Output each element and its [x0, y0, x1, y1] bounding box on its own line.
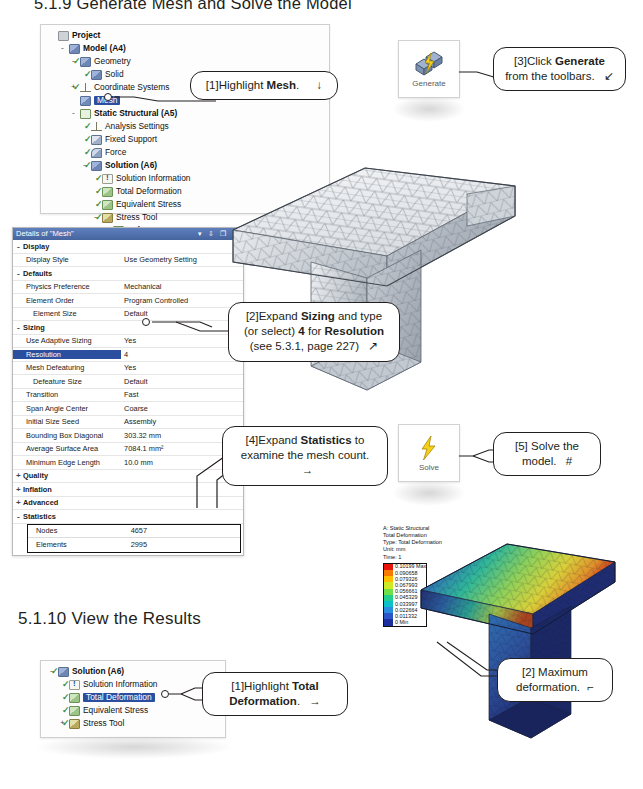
check-icon: ✓	[95, 174, 102, 183]
callout-7-arrow: ⌐	[587, 681, 594, 693]
tree-item-label: Total Deformation	[116, 187, 182, 195]
callout-2-number: [2]	[246, 310, 259, 322]
callout-6-line2-b: .	[297, 695, 300, 707]
support-icon: ✓	[90, 134, 103, 146]
details-row-resolution[interactable]: Resolution4	[13, 348, 243, 362]
details-row-key: Span Angle Center	[26, 404, 88, 413]
details-row-key: Transition	[26, 390, 58, 399]
tree-item-solution-a6[interactable]: -✓Solution (A6)	[47, 665, 225, 678]
tree-item-model-a4[interactable]: -Model (A4)	[47, 42, 329, 55]
callout-2-line1-b: and type	[335, 310, 382, 322]
callout-1-number: [1]	[206, 79, 219, 91]
callout-5-number: [5]	[515, 440, 528, 452]
expander-placeholder: +	[47, 31, 56, 40]
collapse-icon[interactable]: -	[14, 512, 23, 521]
tree-item-label: Static Structural (A5)	[94, 109, 177, 117]
callout-6-highlight-total-deformation: [1]Highlight Total Deformation. →	[202, 672, 348, 716]
check-icon: ✓	[95, 213, 102, 222]
expand-icon[interactable]: +	[14, 471, 23, 480]
details-key-cell: Element Size	[13, 309, 121, 318]
axes-icon: ✓	[79, 82, 92, 94]
details-row-span-angle-center[interactable]: Span Angle CenterCoarse	[13, 402, 243, 416]
details-row-key: Inflation	[23, 485, 52, 494]
details-key-cell: Defeature Size	[13, 377, 121, 386]
callout-2-leader	[146, 318, 238, 338]
details-row-key: Defaults	[23, 269, 52, 278]
details-key-cell: +Advanced	[13, 498, 121, 507]
tree-item-label: Fixed Support	[105, 135, 157, 143]
details-key-cell: Minimum Edge Length	[13, 458, 121, 467]
details-key-cell: -Defaults	[13, 269, 121, 278]
expand-icon[interactable]: +	[14, 498, 23, 507]
callout-1-nub	[104, 93, 112, 101]
callout-4-line1-a: Expand	[258, 434, 300, 446]
callout-5-line2: model.	[522, 455, 557, 467]
callout-5-line1: Solve the	[531, 440, 579, 452]
collapse-icon[interactable]: -	[14, 323, 23, 332]
document-page: 5.1.9 Generate Mesh and Solve the Model …	[0, 0, 643, 789]
tree-item-label: Solid	[105, 70, 124, 78]
callout-3-click-generate: [3]Click Generate from the toolbars. ↙	[493, 47, 626, 91]
details-key-cell: +Inflation	[13, 485, 121, 494]
collapse-icon[interactable]: -	[58, 44, 67, 53]
details-row-defeature-size[interactable]: Defeature SizeDefault	[13, 375, 243, 389]
tree-item-stress-tool[interactable]: +✓Stress Tool	[47, 717, 225, 730]
collapse-icon[interactable]: -	[14, 242, 23, 251]
tree-item-project[interactable]: +Project	[47, 29, 329, 42]
legend-value-label: 0 Min	[393, 619, 408, 626]
details-row-physics-preference[interactable]: Physics PreferenceMechanical	[13, 281, 243, 295]
callout-1-text-after: .	[296, 79, 299, 91]
details-row-key: Element Order	[26, 296, 74, 305]
force-icon: ✓	[90, 147, 103, 159]
details-row-initial-size-seed[interactable]: Initial Size SeedAssembly	[13, 416, 243, 430]
collapse-icon[interactable]: -	[69, 109, 78, 118]
check-icon: ✓	[62, 680, 69, 689]
callout-4-expand-statistics: [4]Expand Statistics to examine the mesh…	[222, 426, 388, 486]
details-row-display[interactable]: -Display	[13, 240, 243, 254]
callout-6-arrow: →	[309, 695, 321, 707]
details-key-cell: Transition	[13, 390, 121, 399]
callout-5-solve-model: [5] Solve the model. #	[493, 432, 601, 476]
legend-color-swatch	[384, 619, 393, 625]
check-icon: ✓	[84, 161, 91, 170]
callout-2-line2-a: (or select)	[244, 325, 298, 337]
expand-icon[interactable]: +	[14, 485, 23, 494]
details-row-transition[interactable]: TransitionFast	[13, 389, 243, 403]
tree-item-label: Analysis Settings	[105, 122, 169, 130]
tree-item-label: Coordinate Systems	[94, 83, 169, 91]
details-row-key: Physics Preference	[26, 282, 90, 291]
details-row-key: Minimum Edge Length	[26, 458, 100, 467]
callout-2-line1-emphasis: Sizing	[301, 310, 335, 322]
details-row-display-style[interactable]: Display StyleUse Geometry Setting	[13, 254, 243, 268]
details-row-key: Element Size	[33, 309, 77, 318]
details-row-bounding-box-diagonal[interactable]: Bounding Box Diagonal303.32 mm	[13, 429, 243, 443]
tree-item-geometry[interactable]: -✓Geometry	[47, 55, 329, 68]
result-icon: ✓	[68, 692, 81, 704]
details-row-defaults[interactable]: -Defaults	[13, 267, 243, 281]
info-icon: ✓	[68, 679, 81, 691]
details-key-cell: -Display	[13, 242, 121, 251]
collapse-icon[interactable]: -	[14, 269, 23, 278]
details-row-element-order[interactable]: Element OrderProgram Controlled	[13, 294, 243, 308]
details-row-mesh-defeaturing[interactable]: Mesh DefeaturingYes	[13, 362, 243, 376]
info-icon: ✓	[101, 173, 114, 185]
callout-3-number: [3]	[514, 55, 527, 67]
tree-item-label: Solution (A6)	[105, 161, 157, 169]
callout-4-number: [4]	[246, 434, 259, 446]
details-key-cell: Physics Preference	[13, 282, 121, 291]
details-panel-titlebar: Details of "Mesh" ▾ ⇩ ❐ ✕	[13, 228, 243, 240]
callout-2-nub	[142, 318, 150, 326]
details-row-key: Mesh Defeaturing	[26, 363, 84, 372]
details-key-cell: +Quality	[13, 471, 121, 480]
statistics-key: Nodes	[28, 526, 128, 535]
section-heading-generate-mesh: 5.1.9 Generate Mesh and Solve the Model	[34, 0, 352, 13]
callout-3-line2: from the toolbars.	[505, 70, 594, 82]
details-key-cell: Span Angle Center	[13, 404, 121, 413]
details-row-key: Display Style	[26, 255, 69, 264]
tree-item-label: Solution (A6)	[72, 667, 124, 675]
tree-item-label: Geometry	[94, 57, 131, 65]
callout-2-line2-emphasis2: Resolution	[325, 325, 384, 337]
solid-icon: ✓	[90, 69, 103, 81]
details-key-cell: Mesh Defeaturing	[13, 363, 121, 372]
details-key-cell: Display Style	[13, 255, 121, 264]
